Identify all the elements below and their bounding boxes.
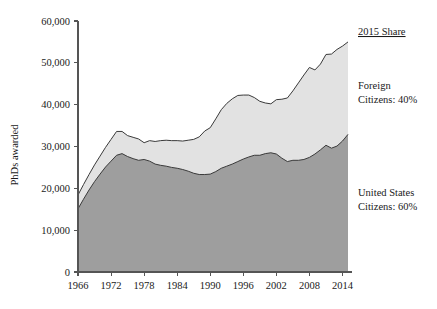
x-tick-label: 1972 (101, 280, 122, 291)
y-tick-label: 50,000 (41, 57, 70, 68)
y-tick-label: 40,000 (41, 99, 70, 110)
stacked-area-chart: 010,00020,00030,00040,00050,00060,000 19… (0, 0, 437, 309)
y-axis-ticks: 010,00020,00030,00040,00050,00060,000 (41, 16, 78, 278)
x-tick-label: 1990 (200, 280, 221, 291)
x-tick-label: 1966 (68, 280, 89, 291)
annotation-us-citizens-line2: Citizens: 60% (358, 201, 417, 212)
y-tick-label: 0 (65, 267, 70, 278)
y-tick-label: 10,000 (41, 225, 70, 236)
x-tick-label: 1996 (233, 280, 254, 291)
y-tick-label: 20,000 (41, 183, 70, 194)
x-tick-label: 2008 (299, 280, 320, 291)
x-axis-ticks: 196619721978198419901996200220082014 (68, 272, 354, 291)
y-tick-label: 60,000 (41, 16, 70, 27)
x-tick-label: 2014 (332, 280, 354, 291)
y-tick-label: 30,000 (41, 141, 70, 152)
annotation-foreign-citizens-line1: Foreign (358, 80, 391, 91)
annotation-foreign-citizens-line2: Citizens: 40% (358, 94, 417, 105)
chart-figure: 010,00020,00030,00040,00050,00060,000 19… (0, 0, 437, 309)
x-tick-label: 1984 (167, 280, 189, 291)
annotation-us-citizens-line1: United States (358, 187, 414, 198)
annotation-2015-share-header: 2015 Share (358, 26, 406, 37)
x-tick-label: 1978 (134, 280, 155, 291)
x-tick-label: 2002 (266, 280, 287, 291)
y-axis-title: PhDs awarded (9, 124, 20, 186)
